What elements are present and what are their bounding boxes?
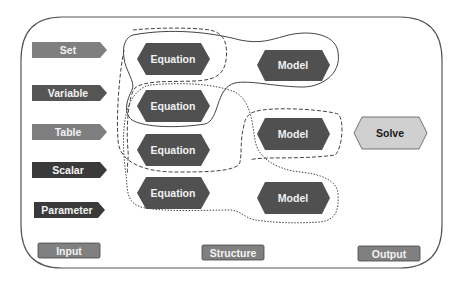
footer-structure-label: Structure	[210, 247, 257, 259]
solve-node[interactable]: Solve	[354, 117, 427, 149]
input-label: Scalar	[52, 164, 84, 176]
input-item-variable[interactable]: Variable	[32, 85, 107, 101]
input-label: Parameter	[41, 204, 92, 216]
input-item-parameter[interactable]: Parameter	[34, 202, 105, 218]
footer-output-label: Output	[372, 248, 407, 260]
model-label: Model	[278, 59, 308, 71]
footer-output-box: Output	[358, 246, 420, 261]
footer-input-label: Input	[56, 245, 82, 257]
model-node-3[interactable]: Model	[257, 182, 330, 214]
input-label: Variable	[48, 87, 88, 99]
equation-label: Equation	[151, 100, 196, 112]
equation-node-2[interactable]: Equation	[137, 90, 210, 122]
model-label: Model	[278, 128, 308, 140]
diagram-canvas: Set Variable Table Scalar Parameter Equa…	[0, 0, 462, 283]
input-item-set[interactable]: Set	[32, 42, 107, 58]
model-node-2[interactable]: Model	[257, 118, 330, 150]
solve-label: Solve	[376, 127, 404, 139]
equation-node-4[interactable]: Equation	[137, 177, 210, 209]
equation-node-3[interactable]: Equation	[137, 134, 210, 166]
equation-node-1[interactable]: Equation	[137, 43, 210, 75]
equation-label: Equation	[151, 53, 196, 65]
equation-label: Equation	[151, 187, 196, 199]
input-item-table[interactable]: Table	[32, 124, 107, 140]
model-node-1[interactable]: Model	[257, 50, 330, 81]
model-label: Model	[278, 192, 308, 204]
footer-structure-box: Structure	[202, 245, 264, 260]
footer-input-box: Input	[38, 243, 100, 258]
equation-label: Equation	[151, 144, 196, 156]
input-label: Table	[55, 126, 82, 138]
input-item-scalar[interactable]: Scalar	[32, 162, 107, 178]
input-label: Set	[60, 44, 77, 56]
